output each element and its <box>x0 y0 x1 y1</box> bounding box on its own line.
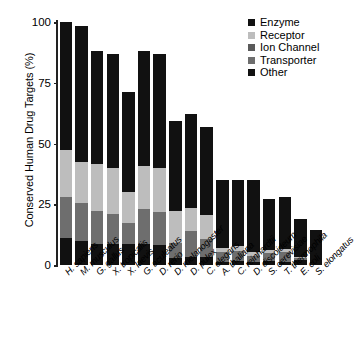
legend-item-transporter[interactable]: Transporter <box>248 55 319 66</box>
bar-d-melanogaster[interactable] <box>169 121 182 265</box>
legend-label: Ion Channel <box>260 42 319 53</box>
bar-segment-other <box>247 262 260 265</box>
bar-segment-enzyme <box>294 219 307 257</box>
bar-h-sapiens[interactable] <box>60 22 73 265</box>
bar-segment-receptor <box>60 150 73 197</box>
chart-legend: EnzymeReceptorIon ChannelTransporterOthe… <box>248 17 319 78</box>
bar-segment-transporter <box>169 243 182 258</box>
bar-segment-other <box>216 262 229 265</box>
bar-segment-transporter <box>216 252 229 262</box>
bar-segment-receptor <box>169 211 182 243</box>
bar-segment-transporter <box>232 251 245 261</box>
bar-a-thaliana[interactable] <box>216 180 229 265</box>
bar-segment-enzyme <box>60 22 73 150</box>
bar-segment-other <box>75 241 88 265</box>
y-tick-label: 50 <box>38 138 51 150</box>
y-tick-label: 75 <box>38 77 51 89</box>
bar-segment-other <box>138 244 151 265</box>
bar-segment-receptor <box>185 208 198 231</box>
bar-segment-receptor <box>153 168 166 211</box>
bar-segment-transporter <box>138 209 151 244</box>
legend-label: Enzyme <box>260 17 300 28</box>
legend-item-other[interactable]: Other <box>248 67 319 78</box>
bar-segment-receptor <box>107 168 120 214</box>
bar-segment-other <box>153 245 166 265</box>
bar-segment-transporter <box>153 212 166 246</box>
legend-label: Transporter <box>260 55 316 66</box>
bar-segment-enzyme <box>200 127 213 215</box>
bar-segment-enzyme <box>75 26 88 161</box>
bar-d-discoideum[interactable] <box>247 180 260 265</box>
bar-segment-enzyme <box>138 51 151 166</box>
legend-swatch-icon <box>248 44 255 51</box>
bar-segment-enzyme <box>185 114 198 208</box>
bar-segment-other <box>232 261 245 265</box>
bar-segment-receptor <box>75 162 88 203</box>
bar-segment-receptor <box>122 192 135 222</box>
bar-g-gallus[interactable] <box>91 51 104 265</box>
bar-segment-other <box>200 257 213 265</box>
bar-segment-transporter <box>75 203 88 241</box>
bar-segment-transporter <box>200 239 213 257</box>
bar-segment-other <box>91 244 104 265</box>
bar-segment-enzyme <box>107 54 120 168</box>
legend-label: Receptor <box>260 30 305 41</box>
bar-segment-other <box>279 262 292 265</box>
bar-e-coli[interactable] <box>294 219 307 265</box>
bar-g-aculeatus[interactable] <box>138 51 151 265</box>
bar-d-rerio[interactable] <box>153 54 166 265</box>
bar-segment-enzyme <box>122 92 135 192</box>
bar-segment-other <box>294 260 307 265</box>
bar-s-elongatus[interactable] <box>310 230 323 265</box>
y-tick-label: 100 <box>32 16 51 28</box>
legend-label: Other <box>260 67 288 78</box>
bar-segment-enzyme <box>263 199 276 250</box>
bar-segment-transporter <box>279 252 292 262</box>
bar-segment-enzyme <box>153 54 166 169</box>
bar-x-laevis[interactable] <box>122 92 135 265</box>
bar-segment-transporter <box>60 197 73 238</box>
bar-d-pulex[interactable] <box>185 114 198 265</box>
legend-swatch-icon <box>248 19 255 26</box>
legend-item-enzyme[interactable]: Enzyme <box>248 17 319 28</box>
legend-item-receptor[interactable]: Receptor <box>248 30 319 41</box>
bar-segment-other <box>60 238 73 265</box>
bar-segment-receptor <box>138 166 151 209</box>
bar-m-musculus[interactable] <box>75 26 88 265</box>
legend-swatch-icon <box>248 57 255 64</box>
bar-segment-enzyme <box>91 51 104 164</box>
legend-swatch-icon <box>248 69 255 76</box>
bar-segment-transporter <box>122 223 135 245</box>
legend-swatch-icon <box>248 32 255 39</box>
bar-c-elegans[interactable] <box>200 127 213 265</box>
bar-segment-other <box>185 257 198 265</box>
bar-segment-other <box>169 258 182 265</box>
bar-s-cerevisiae[interactable] <box>263 199 276 265</box>
bar-segment-receptor <box>200 215 213 239</box>
legend-item-ion-channel[interactable]: Ion Channel <box>248 42 319 53</box>
bar-segment-transporter <box>107 214 120 244</box>
y-axis-title: Conserved Human Drug Targets (%) <box>23 15 35 265</box>
y-tick-label: 25 <box>38 198 51 210</box>
bar-segment-enzyme <box>310 230 323 265</box>
bar-segment-other <box>107 244 120 265</box>
bar-segment-other <box>263 261 276 265</box>
bar-c-reinhardtii[interactable] <box>232 180 245 265</box>
bar-segment-enzyme <box>232 180 245 246</box>
y-tick-label: 0 <box>45 259 51 271</box>
y-tick-mark <box>54 265 58 267</box>
bar-segment-transporter <box>185 231 198 257</box>
bar-segment-other <box>122 244 135 265</box>
bar-x-tropicalis[interactable] <box>107 54 120 265</box>
bar-segment-receptor <box>91 164 104 211</box>
bar-t-thermophila[interactable] <box>279 197 292 265</box>
bar-segment-enzyme <box>216 180 229 248</box>
bar-segment-enzyme <box>247 180 260 252</box>
bar-segment-transporter <box>263 253 276 261</box>
bar-segment-transporter <box>91 211 104 244</box>
bar-segment-enzyme <box>279 197 292 249</box>
bar-segment-enzyme <box>169 121 182 211</box>
